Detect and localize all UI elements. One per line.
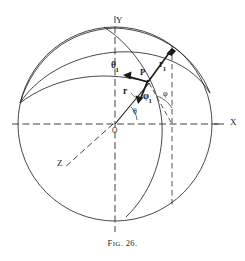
spherical-coordinates-diagram bbox=[0, 0, 245, 261]
vector-theta-sub-1-label: θ1 bbox=[111, 61, 119, 73]
vector-r-label: r bbox=[123, 87, 127, 97]
angle-phi-label: φ bbox=[163, 90, 168, 98]
y-axis-label: Y bbox=[116, 16, 123, 25]
angle-theta-label: θ bbox=[133, 108, 137, 116]
vector-phi-sub-1-label: φ1 bbox=[143, 92, 152, 104]
origin-label: O bbox=[112, 127, 117, 135]
vector-r-sub-1-label: r1 bbox=[159, 60, 167, 72]
x-axis-label: X bbox=[230, 118, 237, 127]
z-axis-dashed bbox=[64, 124, 113, 168]
point-p-label: P bbox=[140, 68, 145, 77]
figure-caption: FIG. 26. bbox=[0, 238, 245, 248]
latitude-tangent-left bbox=[20, 76, 148, 103]
z-axis-label: Z bbox=[57, 159, 63, 168]
figure-container: Y X Z P O r1 θ1 φ1 r θ φ FIG. 26. bbox=[0, 0, 245, 261]
meridian-arc-through-p bbox=[104, 27, 162, 217]
